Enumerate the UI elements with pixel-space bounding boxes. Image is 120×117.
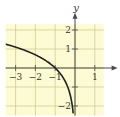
plot-background: [6, 24, 104, 115]
chart: −3−2−1121−2xy: [0, 0, 120, 117]
x-axis-arrow-icon: [112, 66, 118, 71]
x-tick-label: −2: [29, 72, 42, 82]
x-tick-label: −1: [49, 72, 62, 82]
y-tick-label: 1: [65, 44, 71, 54]
y-tick-label: −2: [58, 101, 71, 111]
y-axis-arrow-icon: [73, 13, 78, 19]
y-tick-label: 2: [65, 25, 71, 35]
x-tick-label: 1: [92, 72, 98, 82]
x-tick-label: −3: [9, 72, 23, 82]
y-axis-label: y: [72, 2, 79, 13]
